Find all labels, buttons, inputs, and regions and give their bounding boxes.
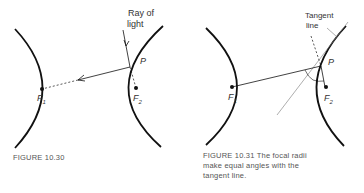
focal-radius-f1 <box>232 66 321 87</box>
tangent-line-label-line1: Tangent <box>305 11 333 21</box>
angle-arc-left <box>305 70 313 80</box>
tangent-line-label-line2: line <box>306 21 318 31</box>
focus-f1-label: F1 <box>228 92 237 106</box>
angle-arc-right <box>313 80 324 81</box>
point-p-label: P <box>328 57 334 67</box>
hyperbola-right-branch <box>128 26 163 147</box>
hyperbola-left-branch <box>15 29 43 148</box>
reflected-extension-dashed <box>42 80 78 89</box>
focus-f2-subscript: 2 <box>139 99 142 105</box>
focus-f2-subscript: 2 <box>330 99 333 105</box>
focus-f2-dot <box>324 85 328 89</box>
figure-10-30-caption: FIGURE 10.30 <box>13 153 65 163</box>
focus-f1-label: F1 <box>37 93 46 107</box>
focus-f1-subscript: 1 <box>234 98 237 104</box>
incoming-ray <box>123 30 130 67</box>
focus-f1-dot <box>40 87 44 91</box>
focus-f1-subscript: 1 <box>43 99 46 105</box>
figure-10-31-caption-line2: make equal angles with the <box>203 161 299 171</box>
ray-of-light-label-line1: Ray of <box>128 8 154 18</box>
tangent-line <box>277 22 348 115</box>
figure-10-31-caption-line1: FIGURE 10.31 The focal radii <box>203 151 307 161</box>
reflected-ray <box>78 67 130 80</box>
point-p-label: P <box>140 56 146 66</box>
focal-radius-f2 <box>321 66 325 87</box>
figure-10-30-diagram <box>15 26 163 148</box>
reflected-arrowhead <box>78 75 85 81</box>
focus-f2-label: F2 <box>133 93 142 107</box>
ray-of-light-label-line2: light <box>127 19 144 29</box>
extension-dashed <box>311 36 321 66</box>
tangent-label-leader <box>327 28 337 37</box>
focus-f1-dot <box>230 85 234 89</box>
figure-10-31-caption-line3: tangent line. <box>203 171 246 181</box>
focus-f2-dot <box>134 86 138 90</box>
figure-10-31-diagram <box>206 22 348 146</box>
focus-f2-label: F2 <box>324 93 333 107</box>
